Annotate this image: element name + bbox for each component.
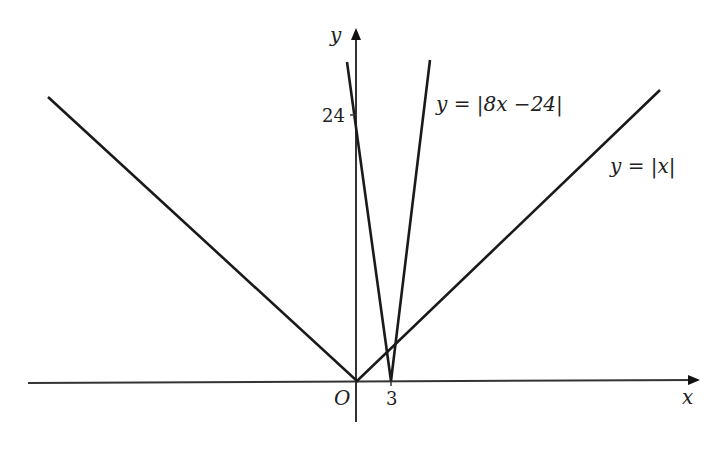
graph-figure: y x O 3 24 y = |8x −24| y = |x| bbox=[0, 0, 728, 451]
y-axis-label: y bbox=[329, 23, 342, 47]
x-tick-3-label: 3 bbox=[386, 388, 397, 409]
curve-label-abs-8x-minus-24: y = |8x −24| bbox=[435, 92, 563, 117]
y-tick-24-label: 24 bbox=[322, 105, 345, 126]
curve-abs-8x-minus-24 bbox=[347, 60, 430, 381]
curve-label-abs-x: y = |x| bbox=[609, 154, 676, 179]
x-axis-label: x bbox=[682, 385, 693, 409]
x-axis bbox=[28, 380, 698, 383]
curve-abs-x bbox=[48, 90, 660, 381]
origin-label: O bbox=[334, 386, 350, 410]
